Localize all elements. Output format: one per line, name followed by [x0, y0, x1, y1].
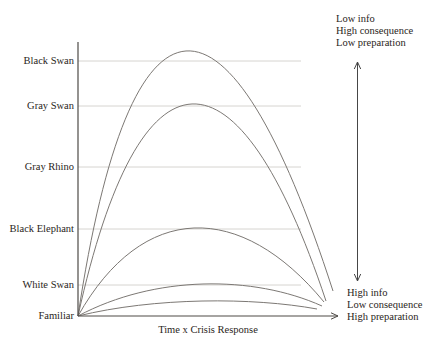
annotation-bottom-line-1: High info — [347, 287, 423, 299]
crisis-taxonomy-diagram: Black Swan Gray Swan Gray Rhino Black El… — [0, 0, 431, 350]
annotation-bottom: High info Low consequence High preparati… — [347, 287, 423, 323]
annotation-top-line-1: Low info — [336, 13, 413, 25]
y-label-black-elephant: Black Elephant — [10, 223, 74, 235]
y-label-gray-swan: Gray Swan — [27, 100, 74, 112]
y-label-white-swan: White Swan — [22, 279, 74, 291]
annotation-bottom-line-3: High preparation — [347, 311, 423, 323]
y-label-black-swan: Black Swan — [24, 55, 74, 67]
annotation-top: Low info High consequence Low preparatio… — [336, 13, 413, 49]
annotation-top-line-2: High consequence — [336, 25, 413, 37]
annotation-bottom-line-2: Low consequence — [347, 299, 423, 311]
x-axis-label: Time x Crisis Response — [108, 323, 308, 336]
y-label-gray-rhino: Gray Rhino — [25, 161, 74, 173]
annotation-top-line-3: Low preparation — [336, 37, 413, 49]
y-label-familiar: Familiar — [38, 310, 74, 322]
